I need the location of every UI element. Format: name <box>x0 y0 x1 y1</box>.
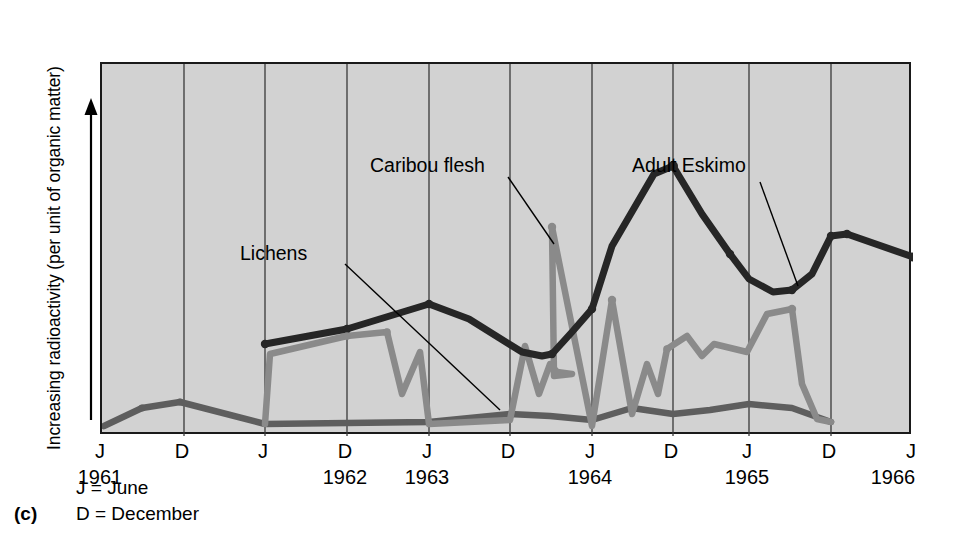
x-tick-month-7: D <box>656 440 686 463</box>
x-tick-year-1963: 1963 <box>392 466 462 489</box>
x-tick-month-0: J <box>85 440 115 463</box>
y-axis-label-container: Increasing radioactivity (per unit of or… <box>0 0 64 455</box>
x-tick-year-1962: 1962 <box>310 466 380 489</box>
x-tick-year-1965: 1965 <box>712 466 782 489</box>
x-tick-year-1966: 1966 <box>858 466 928 489</box>
x-tick-month-10: J <box>896 440 926 463</box>
x-tick-year-1964: 1964 <box>555 466 625 489</box>
chart-canvas <box>102 64 913 436</box>
x-tick-month-4: J <box>412 440 442 463</box>
x-tick-month-9: D <box>814 440 844 463</box>
series-line-adult-eskimo <box>265 166 913 356</box>
x-tick-month-3: D <box>330 440 360 463</box>
plot-area: Caribou flesh Lichens Adult Eskimo <box>100 62 911 434</box>
key-december: D = December <box>76 503 199 525</box>
x-tick-month-6: J <box>575 440 605 463</box>
y-axis-label: Increasing radioactivity (per unit of or… <box>44 66 65 450</box>
figure-panel-c: Increasing radioactivity (per unit of or… <box>0 0 956 548</box>
key-june: J = June <box>76 477 148 499</box>
x-tick-month-8: J <box>732 440 762 463</box>
annotation-lichens: Lichens <box>240 242 307 265</box>
annotation-adult-eskimo: Adult Eskimo <box>632 154 746 177</box>
panel-label: (c) <box>14 503 37 525</box>
x-tick-month-5: D <box>493 440 523 463</box>
annotation-caribou-flesh: Caribou flesh <box>370 154 485 177</box>
y-axis-arrow-icon <box>83 98 99 420</box>
x-tick-month-1: D <box>167 440 197 463</box>
x-tick-month-2: J <box>248 440 278 463</box>
